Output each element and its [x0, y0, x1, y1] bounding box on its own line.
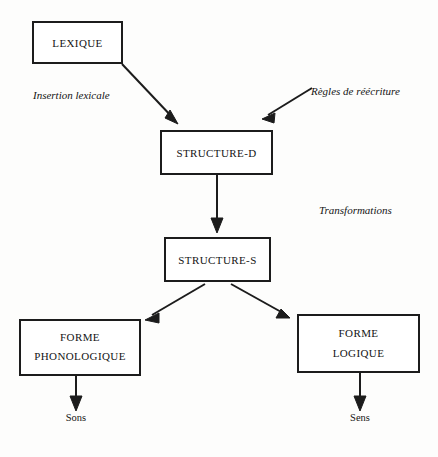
node-forme-logique-label-line2: LOGIQUE [333, 347, 385, 359]
edge-structure-d-to-structure-s [211, 175, 223, 233]
terminal-label-sons: Sons [66, 412, 86, 423]
annotation-transformations: Transformations [319, 204, 392, 216]
node-forme-phonologique[interactable]: FORME PHONOLOGIQUE [20, 320, 140, 375]
node-structure-s-label: STRUCTURE-S [178, 254, 256, 266]
edge-reecriture-to-structure-d [262, 88, 312, 123]
annotation-regles-de-reecriture: Règles de réécriture [310, 85, 400, 97]
grammar-model-diagram: LEXIQUE STRUCTURE-D STRUCTURE-S FORME PH… [0, 0, 438, 457]
node-structure-d-label: STRUCTURE-D [176, 147, 256, 159]
edge-lexique-to-structure-d [122, 64, 178, 124]
node-structure-s[interactable]: STRUCTURE-S [165, 238, 270, 281]
annotation-insertion-lexicale: Insertion lexicale [32, 89, 110, 101]
node-forme-phonologique-label-line2: PHONOLOGIQUE [34, 350, 126, 362]
node-lexique-label: LEXIQUE [52, 37, 102, 49]
node-forme-phonologique-label-line1: FORME [60, 331, 100, 343]
node-forme-logique-label-line1: FORME [339, 327, 379, 339]
edge-structure-s-to-forme-phonologique [145, 284, 205, 323]
node-forme-logique[interactable]: FORME LOGIQUE [298, 315, 419, 372]
terminal-label-sens: Sens [350, 412, 370, 423]
node-lexique[interactable]: LEXIQUE [33, 22, 122, 63]
edge-forme-phonologique-to-sons [70, 376, 82, 411]
diagram-canvas: LEXIQUE STRUCTURE-D STRUCTURE-S FORME PH… [0, 0, 438, 457]
edge-structure-s-to-forme-logique [231, 284, 290, 318]
edge-forme-logique-to-sens [354, 373, 366, 411]
node-structure-d[interactable]: STRUCTURE-D [161, 131, 272, 174]
